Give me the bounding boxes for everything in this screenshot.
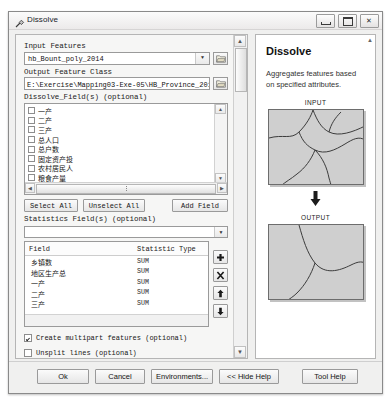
dissolve-fields-label: Dissolve_Field(s) (optional) bbox=[24, 93, 228, 101]
unsplit-lines-checkbox[interactable] bbox=[24, 349, 32, 357]
dissolve-field-checkbox[interactable] bbox=[28, 174, 35, 181]
maximize-button[interactable] bbox=[338, 14, 357, 28]
dissolve-field-label: 总户数 bbox=[38, 144, 59, 154]
output-feature-class-field[interactable]: E:\Exercise\Mapping03-Exe-05\HB_Province… bbox=[24, 77, 210, 90]
footer-buttons: Ok Cancel Environments... << Hide Help T… bbox=[37, 369, 358, 384]
input-features-label: Input Features bbox=[24, 42, 228, 50]
environments-button[interactable]: Environments... bbox=[151, 369, 213, 384]
panel-vscrollbar[interactable]: ▲ ▼ bbox=[233, 35, 247, 358]
table-hscrollbar[interactable] bbox=[25, 314, 208, 326]
table-row[interactable]: 一产SUM bbox=[25, 277, 208, 288]
cell-stat: SUM bbox=[133, 298, 208, 309]
dissolve-field-label: 二产 bbox=[38, 115, 52, 125]
table-row[interactable]: 二产SUM bbox=[25, 288, 208, 299]
dissolve-field-label: 总人口 bbox=[38, 135, 59, 145]
chevron-down-icon[interactable]: ▼ bbox=[214, 227, 227, 237]
move-down-icon[interactable] bbox=[213, 304, 228, 318]
input-features-field[interactable]: hb_Bount_poly_2014 ▼ bbox=[24, 52, 210, 65]
close-button[interactable]: ✕ bbox=[360, 14, 379, 28]
folder-browse-icon bbox=[216, 79, 226, 88]
dissolve-field-checkbox[interactable] bbox=[28, 117, 35, 124]
cancel-button[interactable]: Cancel bbox=[95, 369, 145, 384]
cell-stat: SUM bbox=[133, 277, 208, 288]
dissolve-fields-vscrollbar[interactable]: ▲ ▼ bbox=[214, 104, 227, 183]
input-graphic bbox=[268, 109, 364, 185]
statistics-fields-label: Statistics Field(s) (optional) bbox=[24, 215, 228, 223]
output-feature-class-label: Output Feature Class bbox=[24, 68, 228, 76]
title-bar[interactable]: Dissolve ✕ bbox=[9, 12, 382, 30]
scroll-left-icon[interactable]: ◀ bbox=[25, 183, 35, 193]
table-row[interactable]: 乡镇数SUM bbox=[25, 256, 208, 267]
dissolve-fields-hscrollbar[interactable]: ◀ ▶ bbox=[25, 182, 227, 194]
dissolve-field-item[interactable]: 固定资产投 bbox=[27, 154, 215, 164]
field-action-buttons: Select All Unselect All Add Field bbox=[24, 199, 228, 212]
statistics-fields-combo[interactable]: ▼ bbox=[24, 226, 228, 238]
dissolve-field-item[interactable]: 农村居民人 bbox=[27, 164, 215, 174]
dissolve-field-item[interactable]: 总户数 bbox=[27, 144, 215, 154]
dissolve-dialog: Dissolve ✕ Input Features hb_Bount_poly_… bbox=[8, 11, 383, 394]
select-all-button[interactable]: Select All bbox=[24, 199, 78, 212]
input-features-browse-button[interactable] bbox=[213, 52, 228, 65]
dissolve-field-label: 农村居民人 bbox=[38, 163, 73, 173]
table-header: Field Statistic Type bbox=[25, 242, 208, 256]
scroll-right-icon[interactable]: ▶ bbox=[217, 183, 227, 193]
dissolve-field-label: 固定资产投 bbox=[38, 154, 73, 164]
help-title: Dissolve bbox=[266, 45, 375, 57]
dissolve-field-checkbox[interactable] bbox=[28, 126, 35, 133]
dissolve-fields-list[interactable]: 一产二产三产总人口总户数固定资产投农村居民人粮食产量CNTY_Code2 ▲ ▼… bbox=[24, 103, 228, 195]
unsplit-lines-row[interactable]: Unsplit lines (optional) bbox=[24, 349, 228, 357]
table-rows: 乡镇数SUM地区生产总SUM一产SUM二产SUM三产SUM bbox=[25, 256, 208, 309]
input-features-row: hb_Bount_poly_2014 ▼ bbox=[24, 52, 228, 65]
cell-field: 二产 bbox=[25, 288, 133, 299]
output-graphic bbox=[268, 224, 364, 300]
dissolve-field-item[interactable]: 总人口 bbox=[27, 135, 215, 145]
column-header-field: Field bbox=[25, 242, 133, 255]
input-graphic-block: INPUT bbox=[256, 99, 375, 185]
dissolve-field-checkbox[interactable] bbox=[28, 146, 35, 153]
down-arrow-icon bbox=[309, 191, 322, 210]
chevron-down-icon[interactable]: ▼ bbox=[195, 53, 209, 64]
window-controls: ✕ bbox=[316, 14, 379, 28]
dissolve-field-item[interactable]: 一产 bbox=[27, 106, 215, 116]
table-row[interactable]: 地区生产总SUM bbox=[25, 267, 208, 278]
window-title: Dissolve bbox=[27, 15, 58, 24]
footer-bar: Ok Cancel Environments... << Hide Help T… bbox=[9, 361, 382, 393]
scroll-up-icon[interactable]: ▲ bbox=[215, 104, 226, 114]
help-collapse-icon[interactable]: ▲ bbox=[367, 37, 373, 43]
add-row-icon[interactable] bbox=[213, 250, 228, 264]
output-feature-class-row: E:\Exercise\Mapping03-Exe-05\HB_Province… bbox=[24, 77, 228, 90]
dissolve-field-checkbox[interactable] bbox=[28, 107, 35, 114]
dissolve-field-label: 三产 bbox=[38, 125, 52, 135]
move-up-icon[interactable] bbox=[213, 286, 228, 300]
scroll-down-icon[interactable]: ▼ bbox=[234, 346, 246, 358]
table-side-buttons bbox=[213, 241, 228, 318]
dissolve-field-checkbox[interactable] bbox=[28, 165, 35, 172]
dissolve-field-item[interactable]: 二产 bbox=[27, 116, 215, 126]
unsplit-lines-label: Unsplit lines (optional) bbox=[36, 349, 137, 357]
help-panel: ▲ Dissolve Aggregates features based on … bbox=[255, 34, 376, 359]
create-multipart-row[interactable]: Create multipart features (optional) bbox=[24, 334, 228, 342]
input-graphic-label: INPUT bbox=[256, 99, 375, 106]
cell-stat: SUM bbox=[133, 256, 208, 267]
dialog-body: Input Features hb_Bount_poly_2014 ▼ Outp… bbox=[9, 30, 382, 393]
tool-hammer-icon bbox=[14, 15, 25, 26]
tool-help-button[interactable]: Tool Help bbox=[302, 369, 358, 384]
delete-row-icon[interactable] bbox=[213, 268, 228, 282]
dissolve-field-checkbox[interactable] bbox=[28, 155, 35, 162]
cell-field: 一产 bbox=[25, 277, 133, 288]
hide-help-button[interactable]: << Hide Help bbox=[219, 369, 279, 384]
table-row[interactable]: 三产SUM bbox=[25, 298, 208, 309]
ok-button[interactable]: Ok bbox=[37, 369, 89, 384]
create-multipart-checkbox[interactable] bbox=[24, 334, 32, 342]
output-feature-class-browse-button[interactable] bbox=[213, 77, 228, 90]
add-field-button[interactable]: Add Field bbox=[172, 199, 228, 212]
hscroll-thumb[interactable] bbox=[36, 184, 216, 194]
column-header-stat: Statistic Type bbox=[133, 242, 208, 255]
scroll-up-icon[interactable]: ▲ bbox=[234, 35, 246, 47]
dissolve-field-checkbox[interactable] bbox=[28, 136, 35, 143]
minimize-button[interactable] bbox=[316, 14, 335, 28]
dissolve-field-item[interactable]: 三产 bbox=[27, 125, 215, 135]
statistics-table[interactable]: Field Statistic Type 乡镇数SUM地区生产总SUM一产SUM… bbox=[24, 241, 209, 327]
panel-scroll-thumb[interactable] bbox=[235, 48, 247, 92]
unselect-all-button[interactable]: Unselect All bbox=[83, 199, 145, 212]
